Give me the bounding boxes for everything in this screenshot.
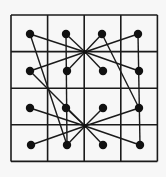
connector-line	[30, 34, 85, 52]
dot-node	[63, 67, 71, 75]
connector-line	[66, 34, 67, 145]
connector-line	[138, 34, 140, 145]
dot-node	[135, 104, 143, 112]
dot-node	[99, 104, 107, 112]
dot-node	[98, 30, 106, 38]
dot-node	[27, 141, 35, 149]
dot-node	[62, 104, 70, 112]
hub-node	[83, 50, 87, 54]
dot-node	[26, 67, 34, 75]
dot-node	[63, 141, 71, 149]
dot-node	[99, 141, 107, 149]
dot-node	[134, 30, 142, 38]
dot-node	[136, 141, 144, 149]
dot-node	[62, 30, 70, 38]
hub-node	[83, 124, 87, 128]
dot-node	[99, 67, 107, 75]
dot-node	[26, 30, 34, 38]
dot-node	[135, 67, 143, 75]
grid-dot-diagram	[0, 0, 166, 177]
dot-node	[26, 104, 34, 112]
